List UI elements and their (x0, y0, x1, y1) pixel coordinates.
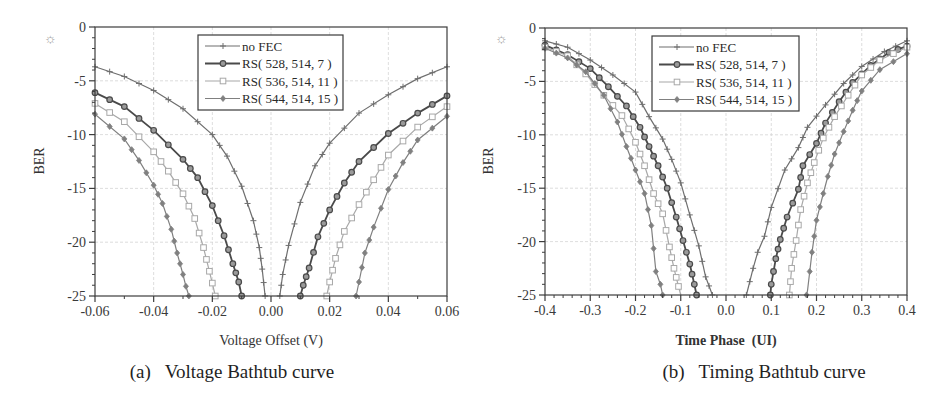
x-tick-label: -0.3 (579, 303, 601, 318)
x-tick-label: -0.4 (534, 303, 556, 318)
x-axis-title: Voltage Offset (V) (219, 333, 323, 349)
x-tick-label: -0.1 (670, 303, 692, 318)
sun-icon: ☼ (44, 31, 57, 46)
legend-label: RS( 528, 514, 7 ) (242, 56, 332, 71)
legend-label: RS( 536, 514, 11 ) (696, 75, 792, 90)
y-tick-label: -5 (74, 74, 86, 89)
legend-label: no FEC (696, 40, 736, 55)
y-tick-label: -5 (524, 74, 536, 89)
legend-label: RS( 544, 514, 15 ) (696, 92, 792, 107)
y-tick-label: -10 (517, 128, 536, 143)
y-axis-ticks: 0-5-10-15-20-25 (67, 20, 95, 304)
x-tick-label: 0.0 (717, 303, 735, 318)
x-tick-label: -0.04 (139, 304, 168, 319)
figure-caption: (b) Timing Bathtub curve (662, 361, 865, 383)
y-tick-label: -10 (67, 128, 86, 143)
voltage-bathtub-panel: ☼ 0-5-10-15-20-25 -0.06-0.04-0.020.000.0… (0, 0, 470, 409)
x-tick-label: -0.06 (80, 304, 109, 319)
y-tick-label: 0 (529, 21, 536, 36)
legend-label: no FEC (242, 39, 282, 54)
x-tick-label: 0.06 (435, 304, 460, 319)
figure-caption: (a) Voltage Bathtub curve (130, 361, 335, 383)
legend: no FECRS( 528, 514, 7 )RS( 536, 514, 11 … (652, 36, 799, 111)
y-tick-label: -25 (517, 288, 536, 303)
legend: no FECRS( 528, 514, 7 )RS( 536, 514, 11 … (198, 35, 343, 110)
y-tick-label: -20 (67, 235, 86, 250)
x-tick-label: 0.4 (898, 303, 916, 318)
y-tick-label: -20 (517, 235, 536, 250)
timing-bathtub-chart: ☼ 0-5-10-15-20-25 -0.4-0.3-0.2-0.10.00.1… (470, 0, 943, 409)
x-tick-label: 0.00 (259, 304, 284, 319)
y-tick-label: 0 (79, 20, 86, 35)
legend-label: RS( 536, 514, 11 ) (242, 74, 338, 89)
x-tick-label: 0.02 (317, 304, 342, 319)
y-axis-title: BER (481, 147, 496, 175)
x-axis-ticks: -0.06-0.04-0.020.000.020.040.06 (80, 296, 459, 319)
x-tick-label: -0.2 (624, 303, 646, 318)
legend-label: RS( 544, 514, 15 ) (242, 91, 338, 106)
x-axis-ticks: -0.4-0.3-0.2-0.10.00.10.20.30.4 (534, 295, 916, 318)
timing-bathtub-panel: ☼ 0-5-10-15-20-25 -0.4-0.3-0.2-0.10.00.1… (470, 0, 943, 409)
x-axis-title: Time Phase (UI) (675, 333, 777, 349)
y-axis-ticks: 0-5-10-15-20-25 (517, 21, 545, 303)
y-tick-label: -25 (67, 289, 86, 304)
x-tick-label: 0.3 (853, 303, 871, 318)
voltage-bathtub-chart: ☼ 0-5-10-15-20-25 -0.06-0.04-0.020.000.0… (0, 0, 470, 409)
x-tick-label: -0.02 (198, 304, 227, 319)
x-tick-label: 0.04 (376, 304, 401, 319)
legend-label: RS( 528, 514, 7 ) (696, 57, 786, 72)
sun-icon: ☼ (495, 31, 508, 46)
y-axis-title: BER (32, 147, 47, 175)
y-tick-label: -15 (67, 181, 86, 196)
y-tick-label: -15 (517, 181, 536, 196)
x-tick-label: 0.2 (808, 303, 826, 318)
x-tick-label: 0.1 (763, 303, 781, 318)
